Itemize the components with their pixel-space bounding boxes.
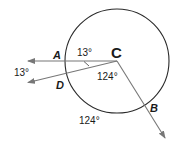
angle-acd-inner: 13° <box>77 47 92 58</box>
label-a: A <box>52 49 61 61</box>
angle-acd-outer: 13° <box>14 67 29 78</box>
label-b: B <box>150 102 158 114</box>
angle-pointer <box>84 62 89 67</box>
circle-diagram: A D B C 13° 13° 124° 124° <box>0 0 175 150</box>
arc-db-outer: 124° <box>79 115 100 126</box>
label-c: C <box>111 44 122 61</box>
angle-dcb-inner: 124° <box>97 71 118 82</box>
ray-cb <box>117 61 165 138</box>
label-d: D <box>56 79 64 91</box>
